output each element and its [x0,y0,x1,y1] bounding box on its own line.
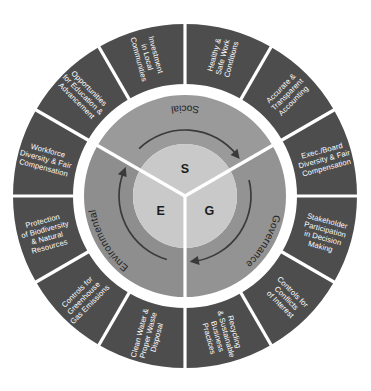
esg-wheel-svg: Protectionof Biodiversity& NaturalResour… [0,0,371,391]
pillar-label-social: Social [170,103,200,115]
core-disc [133,144,237,248]
pillar-label-textpath: Social [170,103,200,115]
core-letter-e: E [157,204,165,218]
esg-wheel-diagram: Protectionof Biodiversity& NaturalResour… [0,0,371,391]
core-letter-g: G [204,204,214,218]
core-letter-s: S [181,162,189,176]
